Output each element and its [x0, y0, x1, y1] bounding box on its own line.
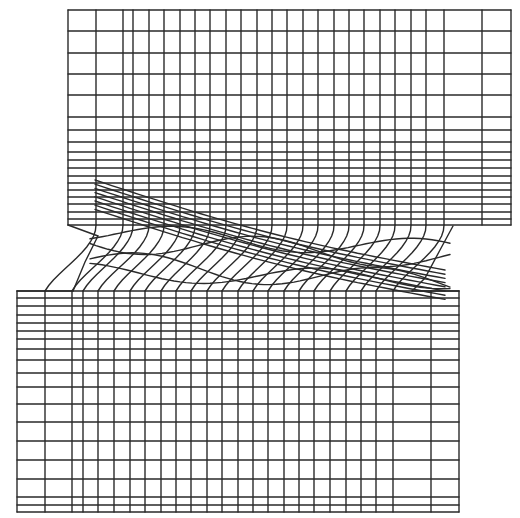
mesh-diagram: [0, 0, 520, 518]
bottom-mesh-block: [17, 291, 459, 512]
shear-band-mesh: [17, 180, 459, 299]
shear-column-line: [45, 225, 96, 291]
shear-column-line: [98, 225, 149, 291]
shear-column-line: [72, 225, 123, 291]
shear-column-line: [284, 225, 334, 291]
